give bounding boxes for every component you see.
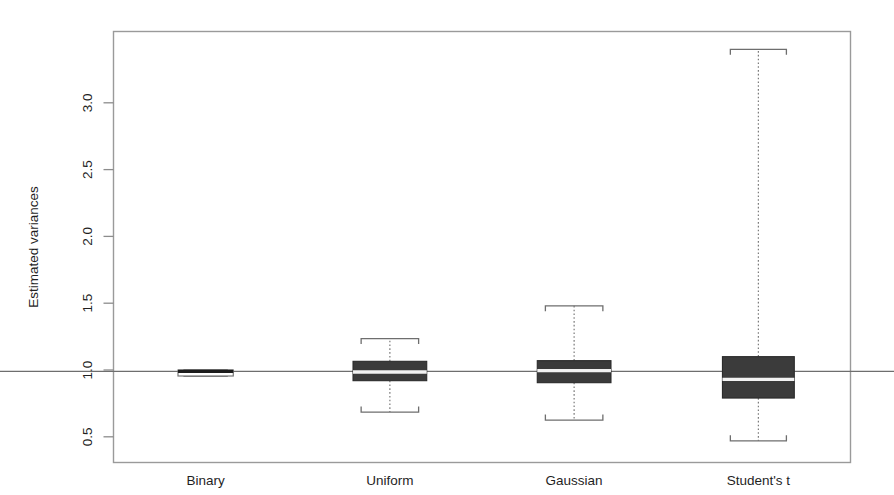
boxplot-uniform	[353, 339, 427, 412]
box-iqr	[722, 357, 794, 398]
x-axis-label-uniform: Uniform	[366, 473, 413, 488]
x-axis-label-binary: Binary	[186, 473, 225, 488]
y-axis-title: Estimated variances	[26, 186, 41, 308]
y-axis-ticks	[104, 103, 114, 437]
boxplot-gaussian	[537, 306, 611, 420]
boxplot-figure: 0.51.01.52.02.53.0 BinaryUniformGaussian…	[0, 0, 894, 495]
x-axis-label-gaussian: Gaussian	[546, 473, 603, 488]
x-axis-category-labels: BinaryUniformGaussianStudent's t	[186, 473, 790, 488]
y-tick-label-2.0: 2.0	[80, 227, 95, 246]
y-tick-label-0.5: 0.5	[80, 427, 95, 446]
box-series	[178, 49, 794, 440]
x-axis-label-student-s-t: Student's t	[727, 473, 791, 488]
boxplot-student-s-t	[722, 49, 794, 440]
y-tick-label-2.5: 2.5	[80, 160, 95, 179]
y-axis-title-text: Estimated variances	[26, 186, 41, 308]
boxplot-canvas: 0.51.01.52.02.53.0 BinaryUniformGaussian…	[0, 0, 894, 495]
y-axis-tick-labels: 0.51.01.52.02.53.0	[80, 93, 95, 446]
y-tick-label-3.0: 3.0	[80, 93, 95, 112]
y-tick-label-1.5: 1.5	[80, 294, 95, 313]
y-tick-label-1.0: 1.0	[80, 361, 95, 380]
boxplot-binary	[178, 370, 233, 376]
